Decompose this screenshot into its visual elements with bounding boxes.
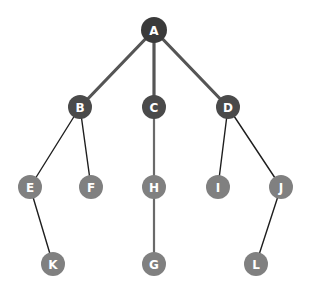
node-label: A xyxy=(149,24,159,38)
tree-node-a: A xyxy=(141,17,167,43)
tree-node-g: G xyxy=(142,252,166,276)
tree-node-l: L xyxy=(244,252,268,276)
node-label: G xyxy=(149,258,159,272)
tree-node-e: E xyxy=(18,175,42,199)
node-label: I xyxy=(216,181,220,195)
edge-a-d xyxy=(154,30,228,107)
tree-diagram: ABCDEFHIJKGL xyxy=(0,0,310,291)
tree-node-d: D xyxy=(216,95,240,119)
edge-d-j xyxy=(228,107,281,187)
node-label: H xyxy=(149,181,159,195)
tree-node-b: B xyxy=(68,95,92,119)
tree-node-j: J xyxy=(269,175,293,199)
node-label: K xyxy=(48,258,58,272)
tree-node-h: H xyxy=(142,175,166,199)
node-label: B xyxy=(75,101,84,115)
edge-b-e xyxy=(30,107,80,187)
edge-a-b xyxy=(80,30,154,107)
node-label: L xyxy=(252,258,260,272)
edges-layer xyxy=(30,30,281,264)
edge-d-i xyxy=(218,107,228,187)
node-label: J xyxy=(278,181,283,195)
tree-node-f: F xyxy=(79,175,103,199)
tree-node-c: C xyxy=(142,95,166,119)
node-label: E xyxy=(26,181,34,195)
tree-node-k: K xyxy=(41,252,65,276)
tree-node-i: I xyxy=(206,175,230,199)
node-label: C xyxy=(150,101,159,115)
node-label: D xyxy=(223,101,233,115)
edge-j-l xyxy=(256,187,281,264)
edge-e-k xyxy=(30,187,53,264)
edge-b-f xyxy=(80,107,91,187)
node-label: F xyxy=(87,181,95,195)
